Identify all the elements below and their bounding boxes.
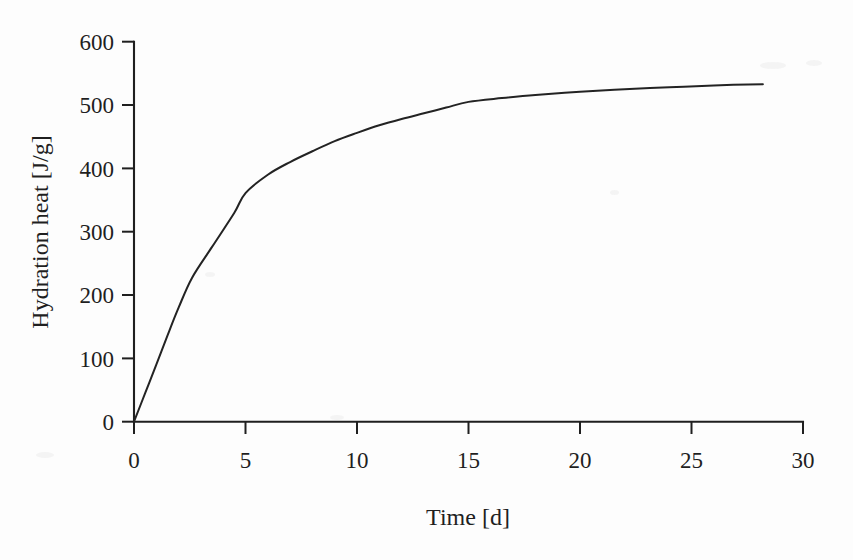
hydration-heat-line-chart: 600 500 400 300 200 100 0 Hydration heat… (0, 0, 853, 560)
x-axis-tick-labels: 0 5 10 15 20 25 30 (128, 448, 814, 473)
x-tick-label-30: 30 (792, 448, 815, 473)
y-tick-label-600: 600 (80, 30, 115, 55)
x-axis: 0 5 10 15 20 25 30 Time [d] (128, 422, 814, 530)
y-axis-title: Hydration heat [J/g] (27, 135, 53, 328)
x-tick-label-20: 20 (569, 448, 592, 473)
y-axis-tick-labels: 600 500 400 300 200 100 0 (80, 30, 115, 435)
x-tick-label-10: 10 (346, 448, 369, 473)
x-tick-label-0: 0 (128, 448, 140, 473)
x-tick-label-5: 5 (240, 448, 252, 473)
y-tick-label-400: 400 (80, 157, 115, 182)
y-tick-label-100: 100 (80, 347, 115, 372)
x-axis-title: Time [d] (426, 504, 510, 530)
y-tick-label-200: 200 (80, 283, 115, 308)
y-tick-label-300: 300 (80, 220, 115, 245)
y-tick-label-500: 500 (80, 93, 115, 118)
y-tick-label-0: 0 (103, 410, 115, 435)
figure-canvas: 600 500 400 300 200 100 0 Hydration heat… (0, 0, 853, 560)
y-axis-ticks (122, 42, 134, 422)
x-tick-label-15: 15 (457, 448, 480, 473)
x-tick-label-25: 25 (680, 448, 703, 473)
y-axis: 600 500 400 300 200 100 0 Hydration heat… (27, 30, 134, 435)
x-axis-ticks (134, 422, 803, 434)
data-series-group (134, 84, 763, 422)
hydration-heat-curve (134, 84, 763, 422)
